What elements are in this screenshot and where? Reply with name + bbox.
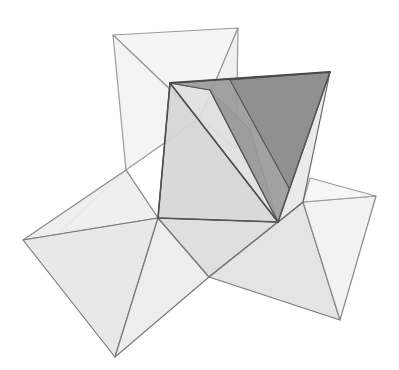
polyhedron-net-svg bbox=[0, 0, 399, 370]
polyhedron-net-figure bbox=[0, 0, 399, 370]
faces-group bbox=[23, 28, 376, 357]
